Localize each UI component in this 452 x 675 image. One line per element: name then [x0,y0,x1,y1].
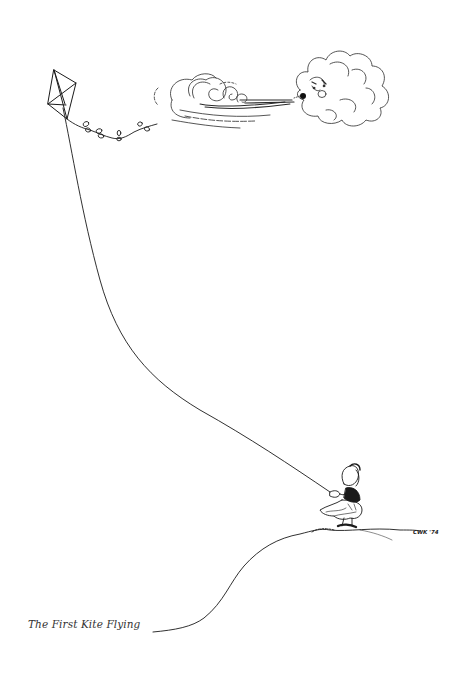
caption: The First Kite Flying [28,618,140,630]
kite-icon [48,70,76,119]
cloud-face-icon [294,51,389,126]
artist-signature: CWK '74 [413,529,439,535]
kite-string [63,108,330,492]
wind-gust-icon [154,74,294,128]
kite-tail-icon [67,119,157,141]
hill-icon [153,529,420,632]
child-icon [320,464,362,527]
